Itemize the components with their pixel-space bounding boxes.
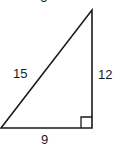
- horizontal-leg-label: 9: [41, 133, 48, 146]
- vertical-leg-label: 12: [98, 68, 112, 81]
- top-label-partial: 6: [40, 0, 47, 4]
- right-angle-marker: [81, 117, 92, 128]
- hypotenuse-label: 15: [13, 67, 27, 80]
